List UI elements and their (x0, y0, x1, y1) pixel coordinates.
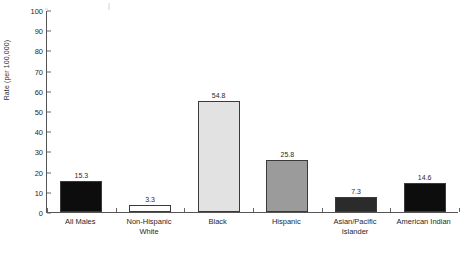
y-axis-tick-label: 30 (35, 148, 43, 157)
scan-artifact (45, 8, 48, 10)
plot-area: 1009080706050403020100 15.33.354.825.87.… (46, 11, 458, 213)
y-axis-tick-label: 100 (30, 7, 43, 16)
y-axis-tickmark (47, 91, 51, 92)
y-axis-tickmark (47, 192, 51, 193)
scan-artifact (108, 3, 110, 10)
y-axis-tick-label: 50 (35, 108, 43, 117)
x-axis-tickmark (47, 208, 48, 212)
bar-value-label: 54.8 (212, 92, 226, 99)
y-axis-tickmark (47, 51, 51, 52)
bar (60, 181, 102, 212)
y-axis-tickmark (47, 213, 51, 214)
bar-value-label: 14.6 (418, 174, 432, 181)
category-label-line-2: Islander (321, 227, 390, 237)
category-label-line-2: White (115, 227, 184, 237)
x-axis-category-label: Hispanic (252, 217, 321, 227)
bar-slot: 25.8 (266, 11, 308, 212)
y-axis-title: Rate (per 100,000) (3, 10, 10, 130)
y-axis-tick-label: 70 (35, 67, 43, 76)
bar (335, 197, 377, 212)
bar-value-label: 15.3 (75, 172, 89, 179)
y-axis-tick-label: 90 (35, 27, 43, 36)
category-label-line-1: Non-Hispanic (126, 217, 171, 226)
category-label-line-1: Hispanic (272, 217, 301, 226)
y-axis-tickmark (47, 11, 51, 12)
x-axis-category-label: All Males (46, 217, 115, 227)
bar-value-label: 25.8 (281, 151, 295, 158)
bar (266, 160, 308, 212)
x-axis-tickmark (253, 208, 254, 212)
bar (198, 101, 240, 212)
x-axis-tickmark (459, 208, 460, 212)
y-axis-tick-label: 60 (35, 87, 43, 96)
bar (404, 183, 446, 212)
x-axis-category-label: Asian/PacificIslander (321, 217, 390, 236)
category-label-line-1: All Males (65, 217, 95, 226)
bar-slot: 14.6 (404, 11, 446, 212)
y-axis-tick-label: 20 (35, 168, 43, 177)
bar-slot: 15.3 (60, 11, 102, 212)
y-axis-tickmark (47, 112, 51, 113)
y-axis-tickmark (47, 71, 51, 72)
y-axis-tickmark (47, 31, 51, 32)
bar-value-label: 7.3 (351, 188, 361, 195)
x-axis-category-label: American Indian (389, 217, 458, 227)
y-axis-tick-label: 40 (35, 128, 43, 137)
bar-slot: 7.3 (335, 11, 377, 212)
y-axis-tick-label: 10 (35, 188, 43, 197)
x-axis-category-labels: All MalesNon-HispanicWhiteBlackHispanicA… (46, 217, 458, 245)
bar-slot: 54.8 (198, 11, 240, 212)
category-label-line-1: American Indian (397, 217, 451, 226)
x-axis-tickmark (322, 208, 323, 212)
x-axis-tickmark (116, 208, 117, 212)
x-axis-category-label: Black (183, 217, 252, 227)
bar-slot: 3.3 (129, 11, 171, 212)
x-axis-tickmark (184, 208, 185, 212)
bar-value-label: 3.3 (145, 196, 155, 203)
category-label-line-1: Black (208, 217, 226, 226)
x-axis-tickmark (390, 208, 391, 212)
y-axis-tickmark (47, 132, 51, 133)
y-axis-tickmark (47, 172, 51, 173)
category-label-line-1: Asian/Pacific (334, 217, 377, 226)
bar-chart-figure: Rate (per 100,000) 100908070605040302010… (0, 0, 462, 266)
y-axis-tick-label: 80 (35, 47, 43, 56)
y-axis-tick-label: 0 (39, 209, 43, 218)
bar (129, 205, 171, 212)
x-axis-category-label: Non-HispanicWhite (115, 217, 184, 236)
y-axis-tickmark (47, 152, 51, 153)
